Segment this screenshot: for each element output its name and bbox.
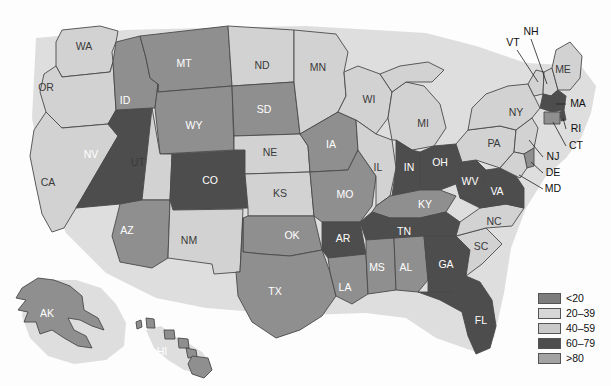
state-callout-label-MD: MD: [545, 182, 562, 194]
state-OH[interactable]: [420, 144, 462, 190]
legend-label-2: 40–59: [566, 323, 595, 334]
legend-swatch-3: [538, 338, 561, 349]
us-map-svg: WAORCANVIDMTWYUTAZCONMNDSDNEKSOKTXMNIAMO…: [0, 0, 611, 386]
legend-row-3[interactable]: 60–79: [538, 336, 608, 351]
state-callout-label-CT: CT: [569, 139, 584, 151]
state-AZ[interactable]: [112, 200, 170, 268]
legend-label-0: <20: [566, 293, 584, 304]
state-OK[interactable]: [243, 216, 322, 256]
state-ND[interactable]: [228, 26, 294, 86]
legend-swatch-2: [538, 323, 561, 334]
state-callout-label-DE: DE: [546, 166, 561, 178]
state-AL[interactable]: [394, 236, 428, 292]
map-legend: <2020–3940–5960–79>80: [538, 291, 608, 366]
choropleth-map-figure: WAORCANVIDMTWYUTAZCONMNDSDNEKSOKTXMNIAMO…: [0, 0, 611, 386]
legend-label-3: 60–79: [566, 338, 595, 349]
state-CO[interactable]: [170, 150, 248, 210]
state-SD[interactable]: [232, 82, 300, 136]
legend-row-1[interactable]: 20–39: [538, 306, 608, 321]
legend-row-4[interactable]: >80: [538, 351, 608, 366]
legend-swatch-1: [538, 308, 561, 319]
legend-swatch-4: [538, 353, 561, 364]
legend-row-2[interactable]: 40–59: [538, 321, 608, 336]
state-AR[interactable]: [322, 222, 366, 258]
state-callout-label-VT: VT: [506, 36, 520, 48]
state-WA[interactable]: [56, 26, 118, 77]
state-MS[interactable]: [366, 238, 396, 294]
state-callout-label-NJ: NJ: [547, 150, 560, 162]
legend-swatch-0: [538, 293, 561, 304]
state-callout-label-NH: NH: [523, 25, 538, 37]
state-WY[interactable]: [155, 84, 234, 154]
state-callout-label-MA: MA: [570, 97, 586, 109]
state-callout-label-RI: RI: [571, 122, 582, 134]
state-CT[interactable]: [544, 112, 560, 124]
legend-label-1: 20–39: [566, 308, 595, 319]
legend-row-0[interactable]: <20: [538, 291, 608, 306]
legend-label-4: >80: [566, 353, 584, 364]
state-NE[interactable]: [234, 134, 310, 174]
state-KS[interactable]: [245, 172, 314, 216]
